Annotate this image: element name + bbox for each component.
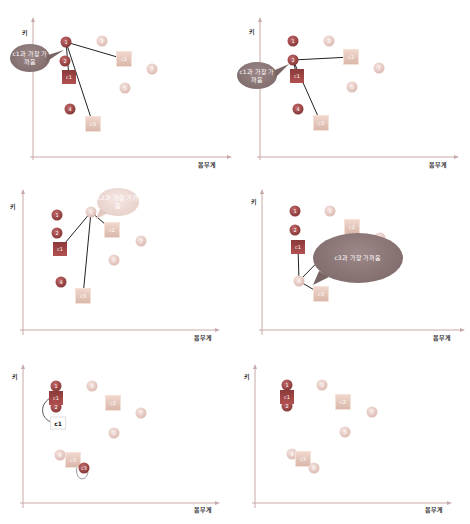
axes: [235, 350, 470, 524]
point-4: 4: [55, 450, 66, 461]
panel-4: 키 몸무게 1 2 3 7 5 c1 c2 c3과 가장 가까움 4 c3: [235, 175, 470, 350]
centroid-c2: c2: [105, 395, 121, 411]
callout-tail: [235, 0, 470, 175]
point-6: 6: [309, 463, 320, 474]
x-axis-label: 몸무게: [194, 505, 212, 514]
point-7: 7: [367, 407, 378, 418]
y-axis-label: 키: [244, 372, 250, 381]
point-4: 4: [294, 276, 305, 287]
point-3: 3: [87, 381, 98, 392]
centroid-c1: c1: [280, 390, 294, 404]
callout-tail: [235, 175, 470, 350]
callout-tail: [0, 0, 235, 175]
centroid-tag-c1: c1: [50, 417, 66, 430]
panel-6: 키 몸무게 1 2 c1 3 c2 7 5 4 c3 6: [235, 350, 470, 524]
panel-3: 키 몸무게 1 2 3 4 5 7 c1 c2 c3 c2과 가장 가까움: [0, 175, 235, 350]
point-5: 5: [109, 428, 120, 439]
callout-tail: [0, 175, 235, 350]
panel-1: 키 몸무게 1 2 3 4 5 7 c1 c2 c3 c1과 가장 가까움: [0, 0, 235, 175]
y-axis-label: 키: [12, 372, 18, 381]
centroid-c1: c1: [49, 391, 63, 405]
centroid-c2: c2: [335, 394, 351, 410]
panel-2: 키 몸무게 1 2 3 4 5 7 c1 c2 c3 c1과 가장 가까움: [235, 0, 470, 175]
point-1: 1: [51, 381, 62, 392]
point-1: 1: [282, 380, 293, 391]
point-5: 5: [340, 427, 351, 438]
x-axis-label: 몸무게: [425, 505, 443, 514]
point-6: c3: [79, 463, 90, 474]
point-7: 7: [136, 408, 147, 419]
point-3: 3: [317, 380, 328, 391]
centroid-c3: c3: [313, 286, 329, 302]
panel-5: 키 몸무게 1 2 c1 c1 3 c2 7 5 4 c3 c3: [0, 350, 235, 524]
